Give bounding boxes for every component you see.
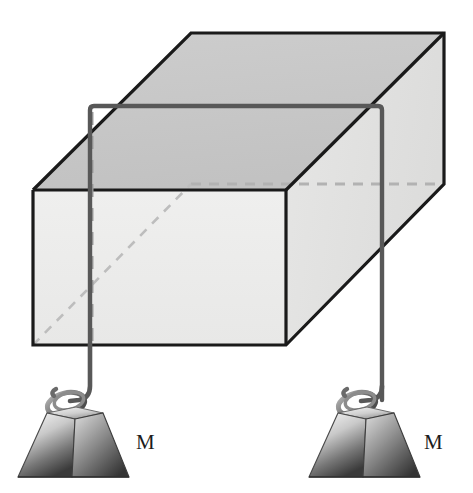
weight-left-side-face (72, 413, 129, 477)
weight-left-front-face (18, 413, 75, 477)
box-front-face (33, 190, 286, 345)
weight-right-side-face (363, 413, 420, 477)
mass-label-right: M (424, 432, 443, 453)
mass-label-left: M (136, 432, 155, 453)
weight-right-front-face (309, 413, 366, 477)
box-and-masses-diagram (0, 0, 473, 493)
physics-figure: M M (0, 0, 473, 493)
